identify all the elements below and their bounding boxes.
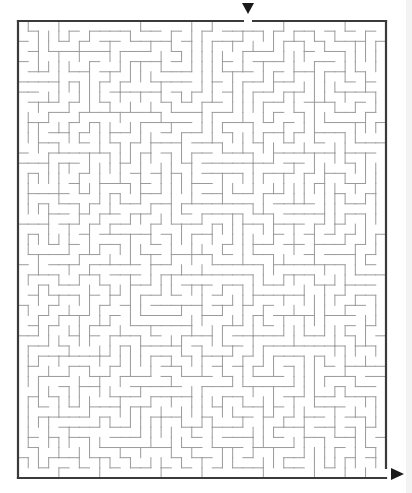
finish-arrow-icon xyxy=(391,468,404,480)
maze-board[interactable] xyxy=(0,0,412,493)
maze-walls xyxy=(18,21,386,478)
start-arrow-icon xyxy=(242,3,254,14)
